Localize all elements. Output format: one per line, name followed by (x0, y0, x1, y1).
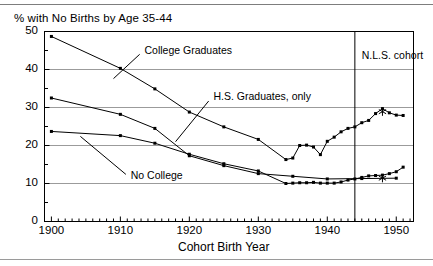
hs-graduates-label: H.S. Graduates, only (213, 90, 310, 102)
y-tick-label-50: 50 (12, 24, 38, 36)
series-layer (50, 35, 405, 185)
data-point (305, 144, 308, 147)
data-point (326, 177, 329, 180)
data-point (333, 182, 336, 185)
no-college-label: No College (131, 169, 183, 181)
college-graduates-label: College Graduates (145, 44, 233, 56)
data-point (395, 170, 398, 173)
data-point (395, 177, 398, 180)
x-tick-label-1940: 1940 (305, 224, 349, 236)
data-point (257, 138, 260, 141)
data-point (222, 162, 225, 165)
data-point (326, 182, 329, 185)
plot-frame (45, 32, 414, 222)
x-tick-label-1950: 1950 (374, 224, 418, 236)
chart-page: % with No Births by Age 35-44 0102030405… (0, 0, 433, 266)
data-point (333, 136, 336, 139)
data-point (153, 142, 156, 145)
data-point (291, 157, 294, 160)
data-point (119, 113, 122, 116)
data-point (305, 181, 308, 184)
data-point (298, 181, 301, 184)
y-minor-ticks (45, 32, 50, 222)
x-tick-label-1910: 1910 (98, 224, 142, 236)
data-point (402, 166, 405, 169)
data-point (326, 140, 329, 143)
no-college-leader (80, 136, 126, 174)
x-tick-label-1920: 1920 (167, 224, 211, 236)
data-point (346, 179, 349, 182)
data-point (188, 111, 191, 114)
data-point (360, 176, 363, 179)
data-point (257, 172, 260, 175)
data-point (388, 111, 391, 114)
data-point (50, 97, 53, 100)
data-point (353, 125, 356, 128)
data-point (153, 127, 156, 130)
data-point (367, 119, 370, 122)
data-point (284, 158, 287, 161)
y-tick-label-20: 20 (12, 138, 38, 150)
data-point (188, 153, 191, 156)
data-point (284, 182, 287, 185)
star-markers (379, 107, 386, 182)
x-minor-ticks (51, 217, 410, 222)
x-axis-label: Cohort Birth Year (178, 240, 269, 254)
data-point (119, 134, 122, 137)
y-tick-label-40: 40 (12, 62, 38, 74)
data-point (395, 114, 398, 117)
data-point (119, 67, 122, 70)
data-point (340, 130, 343, 133)
data-point (291, 182, 294, 185)
nls-cohort-label: N.L.S. cohort (362, 49, 423, 61)
data-point (319, 182, 322, 185)
x-tick-label-1930: 1930 (236, 224, 280, 236)
data-point (367, 174, 370, 177)
data-point (50, 35, 53, 38)
data-point (388, 172, 391, 175)
data-point (353, 177, 356, 180)
data-point (153, 87, 156, 90)
data-point (360, 121, 363, 124)
data-point (346, 127, 349, 130)
data-point (222, 125, 225, 128)
data-point (312, 181, 315, 184)
data-point (340, 180, 343, 183)
data-point (291, 175, 294, 178)
series-line-2 (51, 131, 403, 183)
y-tick-label-30: 30 (12, 100, 38, 112)
data-point (402, 114, 405, 117)
data-point (312, 146, 315, 149)
data-point (374, 112, 377, 115)
y-tick-label-10: 10 (12, 176, 38, 188)
data-point (374, 174, 377, 177)
data-point (319, 153, 322, 156)
x-tick-label-1900: 1900 (29, 224, 73, 236)
data-point (298, 144, 301, 147)
data-point (50, 130, 53, 133)
data-point (257, 169, 260, 172)
